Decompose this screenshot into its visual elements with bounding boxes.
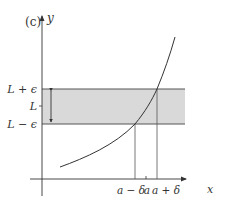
x-tick-label-a: a <box>144 184 150 196</box>
y-tick-label-lower: L − ϵ <box>6 118 37 131</box>
x-tick-label-a-minus-delta: a − δ <box>117 184 145 196</box>
epsilon-band <box>42 89 185 124</box>
y-axis-label: y <box>46 11 54 25</box>
panel-label: (c) <box>25 15 41 29</box>
y-tick-label-L: L <box>29 100 37 113</box>
epsilon-delta-diagram: (c) y x L + ϵ L L − ϵ a − δ a a + δ <box>0 0 226 207</box>
x-axis-label: x <box>207 183 214 196</box>
y-tick-label-upper: L + ϵ <box>6 83 37 96</box>
x-tick-label-a-plus-delta: a + δ <box>152 184 180 196</box>
